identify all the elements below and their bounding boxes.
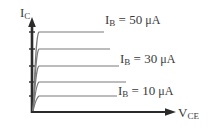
curve-label-ib-10: IB = 10 μA <box>118 84 173 99</box>
curve-label-unit: μA <box>155 84 173 98</box>
curve-label-equals: = <box>115 12 129 27</box>
y-axis-label: IC <box>20 6 30 21</box>
curve-label-value: 10 <box>142 83 155 98</box>
characteristic-curves <box>33 32 126 111</box>
curve-label-unit: μA <box>142 13 160 27</box>
curve-label-equals: = <box>130 51 144 66</box>
x-axis <box>31 108 176 115</box>
curve-ib-10 <box>33 96 117 111</box>
curve-label-ib-50: IB = 50 μA <box>105 13 160 28</box>
curve-label-equals: = <box>128 83 142 98</box>
x-axis-label-symbol: V <box>178 105 187 120</box>
curve-label-value: 50 <box>129 12 142 27</box>
curve-label-unit: μA <box>157 52 175 66</box>
y-axis-label-subscript: C <box>24 11 30 21</box>
transistor-output-characteristics-figure: IC VCE IB = 50 μA IB = 30 μA IB = 10 μA <box>0 0 221 128</box>
curve-label-ib-30: IB = 30 μA <box>120 52 175 67</box>
x-axis-label-subscript: CE <box>187 111 199 121</box>
curve-ib-40 <box>33 49 110 111</box>
curve-ib-30 <box>33 66 119 111</box>
x-axis-label: VCE <box>178 106 199 121</box>
curve-ib-50 <box>33 32 104 111</box>
curve-label-value: 30 <box>144 51 157 66</box>
